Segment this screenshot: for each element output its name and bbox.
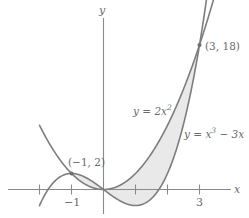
annotation-point-left: (−1, 2) <box>68 157 105 168</box>
shaded-area-between-curves <box>72 45 200 206</box>
x-axis-label: x <box>234 184 240 195</box>
point-marker-right <box>198 43 202 47</box>
annotation-point-right: (3, 18) <box>205 41 240 52</box>
x-tick-label--1: −1 <box>64 197 80 208</box>
curve-label-parabola: y = 2x2 <box>133 104 172 116</box>
curve-parabola-main <box>40 0 220 190</box>
x-tick-label-3: 3 <box>196 197 203 208</box>
curve-label-parabola-exponent: 2 <box>167 103 172 112</box>
curve-label-parabola-text: y = 2x <box>133 105 167 117</box>
y-axis-label: y <box>99 5 105 16</box>
curve-label-cubic-text: y = x <box>184 128 211 140</box>
curve-label-cubic: y = x3 − 3x <box>184 127 244 139</box>
point-marker-left <box>70 171 74 175</box>
graph-svg <box>0 0 249 218</box>
curve-label-cubic-tail: − 3x <box>216 128 244 140</box>
figure-container: y x −1 3 (−1, 2) (3, 18) y = 2x2 y = x3 … <box>0 0 249 218</box>
